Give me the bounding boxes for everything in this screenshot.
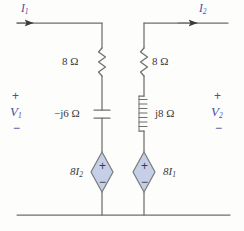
v2-minus-sign: − [215,122,222,134]
v1-plus-sign: + [12,90,19,102]
v2-plus-sign: + [214,90,221,102]
inductor-coils [139,100,147,127]
source-right-plus-sign: + [141,160,148,172]
source-left-label: 8I2 [70,166,83,178]
port-voltage-label-v2: V2 [211,105,223,119]
current-label-i1: I1 [21,3,29,15]
resistor-left-label: 8 Ω [62,56,78,67]
v1-minus-sign: − [13,122,20,134]
source-left-plus-sign: + [99,160,106,172]
port-voltage-label-v1: V1 [10,105,22,119]
circuit-diagram: I1 I2 + V1 − + V2 − 8 Ω 8 Ω −j6 Ω j8 Ω +… [0,0,244,231]
capacitor-label: −j6 Ω [54,108,80,119]
resistor-right-zigzag [141,48,148,76]
resistor-right-label: 8 Ω [152,56,168,67]
source-right-minus-sign: − [141,176,148,188]
resistor-left-zigzag [99,48,106,76]
source-left-minus-sign: − [99,176,106,188]
source-right-label: 8I1 [163,166,176,178]
current-label-i2: I2 [199,3,207,15]
inductor-label: j8 Ω [155,108,174,119]
circuit-schematic-svg [0,0,244,231]
